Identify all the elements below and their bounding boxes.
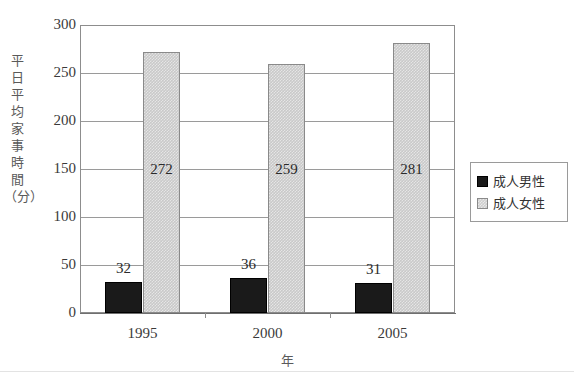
y-axis-tick-label: 0 <box>32 304 76 321</box>
x-axis-tick-label: 2005 <box>378 325 408 342</box>
legend-item-female[interactable]: 成人女性 <box>477 192 561 214</box>
chart-figure: 平 日 平 均 家 事 時 間 （分） 050100150200250300 3… <box>0 0 574 378</box>
y-axis-tick-label: 50 <box>32 256 76 273</box>
data-label-male: 31 <box>366 261 381 278</box>
x-axis-tick-label: 1995 <box>128 325 158 342</box>
data-label-female: 259 <box>275 161 298 178</box>
y-axis-title-char: 時 <box>4 154 30 171</box>
y-axis-tick-labels: 050100150200250300 <box>28 0 76 378</box>
data-label-male: 32 <box>116 260 131 277</box>
chart-legend: 成人男性 成人女性 <box>470 162 568 222</box>
black-square-icon <box>477 176 488 187</box>
data-label-male: 36 <box>241 256 256 273</box>
x-axis-tick-mark <box>205 313 206 318</box>
legend-item-male[interactable]: 成人男性 <box>477 170 561 192</box>
legend-label-female: 成人女性 <box>493 197 545 210</box>
bar-male <box>355 283 392 313</box>
legend-label-male: 成人男性 <box>493 175 545 188</box>
scan-artifact-line <box>0 371 574 372</box>
y-axis-title-char: 均 <box>4 103 30 120</box>
bar-female <box>393 43 430 313</box>
y-axis-title-char: 平 <box>4 52 30 69</box>
bar-female <box>143 52 180 313</box>
y-axis-title-char: 家 <box>4 120 30 137</box>
data-label-female: 281 <box>400 161 423 178</box>
bar-male <box>105 282 142 313</box>
y-axis-tick-label: 150 <box>32 160 76 177</box>
data-label-female: 272 <box>150 161 173 178</box>
y-axis-title-char: 事 <box>4 137 30 154</box>
x-axis-tick-label: 2000 <box>253 325 283 342</box>
x-axis-line <box>80 313 456 314</box>
bar-female <box>268 64 305 313</box>
y-axis-title-char: 平 <box>4 86 30 103</box>
y-axis-title-char: 間 <box>4 171 30 188</box>
y-axis-title: 平 日 平 均 家 事 時 間 （分） <box>4 52 30 205</box>
gray-square-icon <box>477 198 488 209</box>
y-axis-tick-label: 100 <box>32 208 76 225</box>
x-axis-tick-mark <box>330 313 331 318</box>
x-axis-title: 年 <box>0 350 574 369</box>
bar-male <box>230 278 267 313</box>
y-axis-tick-label: 300 <box>32 16 76 33</box>
y-axis-tick-label: 250 <box>32 64 76 81</box>
y-axis-title-char: 日 <box>4 69 30 86</box>
y-axis-title-char: （分） <box>4 188 30 205</box>
y-axis-tick-label: 200 <box>32 112 76 129</box>
